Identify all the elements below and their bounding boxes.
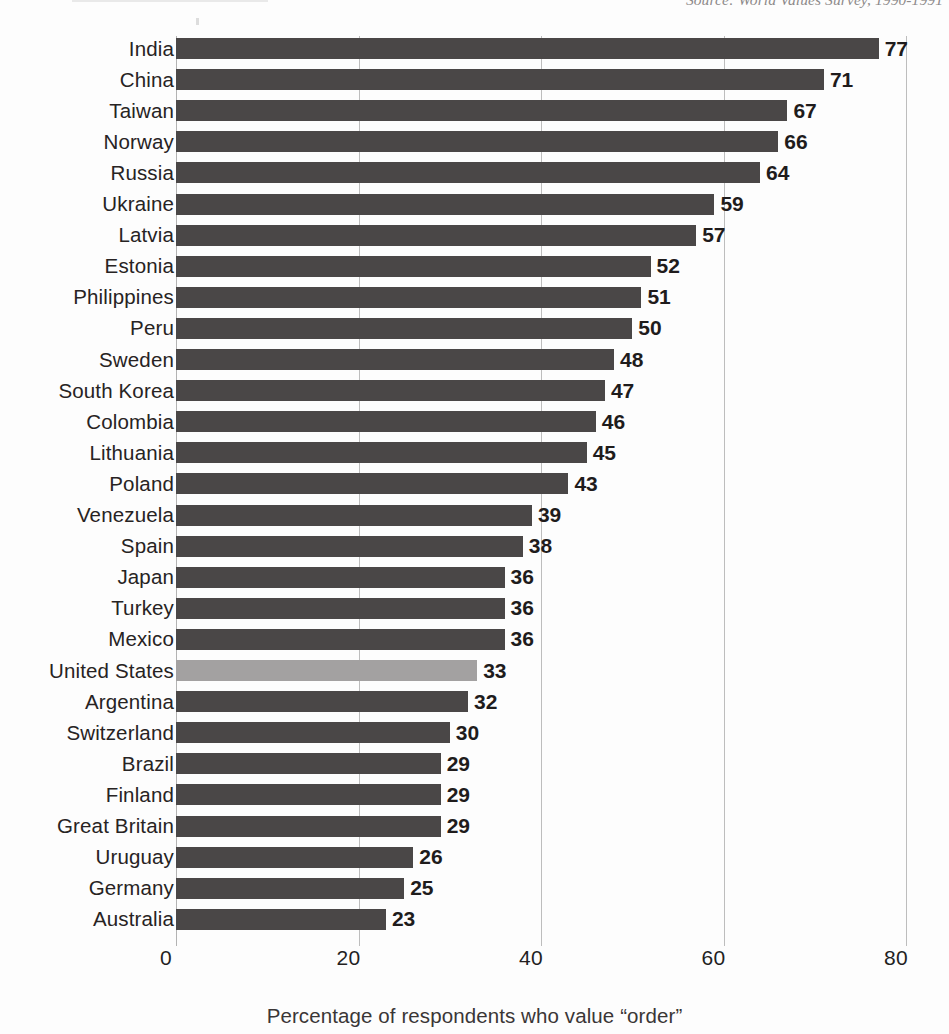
bar-row: Mexico36: [0, 629, 949, 650]
bar-row: Venezuela39: [0, 505, 949, 526]
bar: [176, 100, 787, 121]
bar-row: South Korea47: [0, 380, 949, 401]
bar: [176, 816, 441, 837]
bar-row: China71: [0, 69, 949, 90]
bar-row: Ukraine59: [0, 194, 949, 215]
bar: [176, 38, 879, 59]
bar: [176, 753, 441, 774]
category-label: Brazil: [122, 753, 174, 774]
category-label: Latvia: [118, 224, 174, 245]
bar-value-label: 64: [766, 162, 789, 183]
bar-value-label: 47: [611, 379, 634, 400]
category-label: Venezuela: [77, 504, 174, 525]
category-label: Colombia: [86, 411, 174, 432]
bar: [176, 442, 587, 463]
category-label: Germany: [89, 877, 174, 898]
category-label: Estonia: [105, 255, 174, 276]
bar: [176, 536, 523, 557]
bar-value-label: 36: [511, 566, 534, 587]
bar-value-label: 48: [620, 348, 643, 369]
bar-value-label: 30: [456, 721, 479, 742]
bar: [176, 691, 468, 712]
bar: [176, 909, 386, 930]
bar-row: Switzerland30: [0, 722, 949, 743]
bar-value-label: 23: [392, 908, 415, 929]
bar-highlight: [176, 660, 477, 681]
bar: [176, 162, 760, 183]
bar-row: Lithuania45: [0, 442, 949, 463]
bar-row: Japan36: [0, 567, 949, 588]
category-label: Australia: [93, 908, 174, 929]
bar-row: Philippines51: [0, 287, 949, 308]
bar: [176, 69, 824, 90]
x-tick-0: 0: [160, 946, 172, 970]
bar-value-label: 36: [511, 597, 534, 618]
category-label: Mexico: [108, 628, 174, 649]
bar-value-label: 29: [447, 784, 470, 805]
bar-value-label: 66: [784, 130, 807, 151]
bar-value-label: 57: [702, 224, 725, 245]
bar-value-label: 32: [474, 690, 497, 711]
bar-row: Sweden48: [0, 349, 949, 370]
bar: [176, 287, 641, 308]
category-label: India: [129, 38, 174, 59]
category-label: Great Britain: [57, 815, 174, 836]
bar-row: Uruguay26: [0, 847, 949, 868]
bar: [176, 629, 505, 650]
bar: [176, 567, 505, 588]
bar-value-label: 46: [602, 410, 625, 431]
bar-value-label: 36: [511, 628, 534, 649]
bar-row: Norway66: [0, 131, 949, 152]
bar-row: Germany25: [0, 878, 949, 899]
bar-value-label: 29: [447, 815, 470, 836]
bar-value-label: 39: [538, 504, 561, 525]
bar-row: Peru50: [0, 318, 949, 339]
bar: [176, 847, 413, 868]
bar-value-label: 77: [885, 37, 908, 58]
category-label: Sweden: [99, 349, 174, 370]
bar-row: Great Britain29: [0, 816, 949, 837]
bar-row: Spain38: [0, 536, 949, 557]
category-label: Taiwan: [109, 100, 174, 121]
bar-value-label: 25: [410, 877, 433, 898]
bar-row: Australia23: [0, 909, 949, 930]
x-tick-60: 60: [702, 946, 726, 970]
bar-row: Poland43: [0, 473, 949, 494]
category-label: South Korea: [58, 380, 174, 401]
category-label: Norway: [104, 131, 174, 152]
bar-value-label: 26: [419, 846, 442, 867]
category-label: Turkey: [111, 597, 174, 618]
bar-row: Estonia52: [0, 256, 949, 277]
bar-row: United States33: [0, 660, 949, 681]
bar-chart-plot: 020406080 India77China71Taiwan67Norway66…: [0, 0, 949, 1034]
bar-value-label: 45: [593, 441, 616, 462]
bar: [176, 131, 778, 152]
bar: [176, 194, 714, 215]
bar: [176, 598, 505, 619]
bar-row: Russia64: [0, 162, 949, 183]
x-axis-label: Percentage of respondents who value “ord…: [0, 1004, 949, 1028]
category-label: Ukraine: [102, 193, 174, 214]
category-label: China: [120, 69, 174, 90]
bar: [176, 256, 651, 277]
x-tick-40: 40: [519, 946, 543, 970]
bar-row: Colombia46: [0, 411, 949, 432]
bar: [176, 878, 404, 899]
category-label: Japan: [117, 566, 174, 587]
bar-row: India77: [0, 38, 949, 59]
bar-row: Argentina32: [0, 691, 949, 712]
category-label: Finland: [106, 784, 174, 805]
bar: [176, 505, 532, 526]
bar-row: Brazil29: [0, 753, 949, 774]
bar-value-label: 52: [657, 255, 680, 276]
bar: [176, 722, 450, 743]
bar: [176, 411, 596, 432]
category-label: Russia: [110, 162, 174, 183]
bar-value-label: 71: [830, 68, 853, 89]
category-label: Uruguay: [95, 846, 174, 867]
bar-row: Turkey36: [0, 598, 949, 619]
category-label: Philippines: [73, 286, 174, 307]
bar: [176, 349, 614, 370]
bar-value-label: 51: [647, 286, 670, 307]
bar: [176, 473, 568, 494]
